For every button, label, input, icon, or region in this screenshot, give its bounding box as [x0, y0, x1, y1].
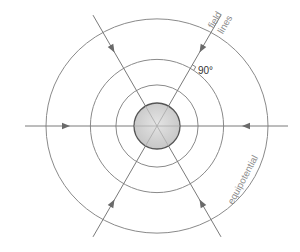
field-line-5	[93, 146, 146, 237]
equipotential-label: equipotential	[225, 153, 260, 206]
field-diagram: 90° field lines equipotential	[0, 0, 300, 252]
arrowhead-6	[200, 200, 207, 209]
arrowhead-5	[108, 200, 115, 209]
arrowhead-1	[242, 123, 250, 129]
angle-label: 90°	[198, 65, 213, 76]
equipotential-word: equipotential	[225, 153, 260, 206]
arrowhead-4	[62, 123, 70, 129]
field-line-6	[169, 146, 222, 237]
arrowhead-2	[200, 44, 207, 53]
field-line-3	[93, 15, 146, 106]
arrowhead-3	[108, 44, 115, 53]
